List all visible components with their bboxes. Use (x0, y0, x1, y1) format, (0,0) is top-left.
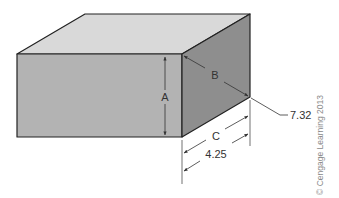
label-b: B (211, 69, 218, 81)
leader-diagonal-value: 7.32 (251, 98, 311, 121)
label-a: A (161, 91, 169, 103)
label-c: C (212, 130, 220, 142)
diagonal-value: 7.32 (290, 109, 311, 121)
box-dimension-diagram: A B 7.32 C 4.25 © Cengage Learning 2013 (0, 0, 339, 198)
front-face (17, 54, 182, 137)
copyright-text: © Cengage Learning 2013 (315, 95, 325, 195)
depth-value: 4.25 (205, 148, 226, 160)
